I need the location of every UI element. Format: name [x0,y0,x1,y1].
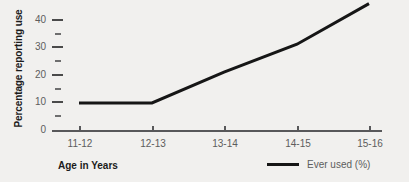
series-ever-used [0,0,409,182]
x-axis-title: Age in Years [58,160,118,171]
chart-legend: Ever used (%) [267,159,370,170]
legend-label-ever-used: Ever used (%) [307,159,370,170]
line-chart-figure: Percentage reporting use 40 30 20 10 0 1… [0,0,409,182]
legend-swatch-ever-used [267,163,299,166]
plot-area: 11-12 12-13 13-14 14-15 15-16 [0,0,409,182]
